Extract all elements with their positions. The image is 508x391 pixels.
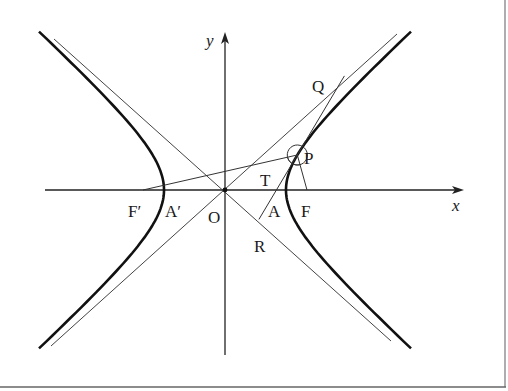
label-Q: Q	[312, 77, 324, 96]
label-A: A	[268, 202, 281, 221]
hyperbola-figure: y x F′ A′ O A F T P Q R	[0, 0, 508, 391]
line-F-prime-to-P	[143, 155, 297, 190]
label-R: R	[254, 237, 266, 256]
label-T: T	[260, 171, 271, 190]
x-axis	[45, 186, 464, 194]
label-P: P	[304, 149, 313, 168]
tangent-line-QR	[259, 76, 345, 220]
label-origin-O: O	[208, 208, 220, 227]
y-axis	[221, 32, 229, 355]
hyperbola-diagram: y x F′ A′ O A F T P Q R	[0, 0, 508, 391]
origin-point	[223, 188, 228, 193]
label-F-prime: F′	[128, 202, 141, 221]
x-axis-label: x	[451, 196, 460, 215]
y-axis-label: y	[204, 31, 214, 50]
label-A-prime: A′	[165, 202, 181, 221]
label-F: F	[301, 202, 310, 221]
